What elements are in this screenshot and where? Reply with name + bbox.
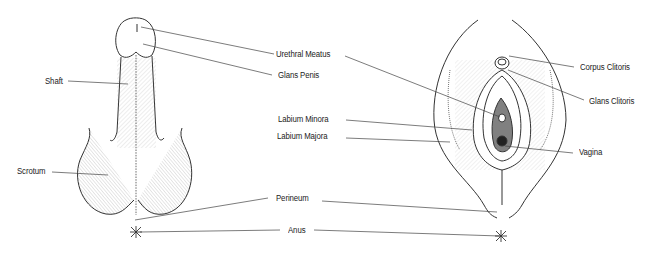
- diagram-drawing: [0, 0, 654, 255]
- male-figure: [78, 18, 192, 238]
- label-anus: Anus: [288, 225, 305, 235]
- urethral-opening: [499, 114, 506, 122]
- female-figure: [434, 20, 566, 242]
- label-labium-majora: Labium Majora: [277, 131, 328, 141]
- label-corpus-clitoris: Corpus Clitoris: [580, 62, 630, 72]
- label-shaft: Shaft: [45, 76, 63, 86]
- label-labium-minora: Labium Minora: [278, 114, 329, 124]
- label-glans-clitoris: Glans Clitoris: [589, 96, 634, 106]
- label-urethral-meatus: Urethral Meatus: [276, 49, 330, 59]
- glans-penis-shape: [116, 18, 156, 57]
- label-vagina: Vagina: [579, 147, 602, 157]
- label-perineum: Perineum: [276, 193, 309, 203]
- anatomy-diagram: Shaft Scrotum Urethral Meatus Glans Peni…: [0, 0, 654, 255]
- label-glans-penis: Glans Penis: [278, 70, 319, 80]
- vaginal-opening: [497, 136, 507, 146]
- label-scrotum: Scrotum: [17, 166, 45, 176]
